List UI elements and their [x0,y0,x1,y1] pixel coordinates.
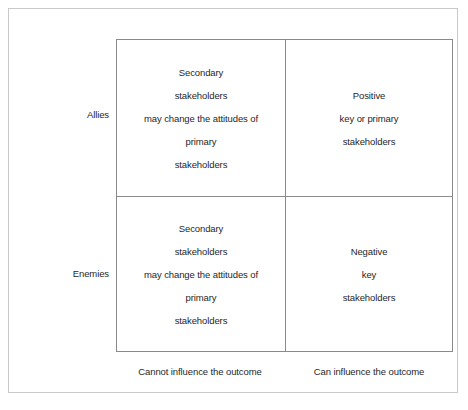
quadrant-text-line: stakeholders [343,130,396,153]
quadrant-text-line: Positive [353,84,385,107]
quadrant-text-line: primary [186,286,217,309]
quadrant-allies-cannot-influence: Secondary stakeholders may change the at… [117,40,285,196]
quadrant-text-line: stakeholders [343,286,396,309]
quadrant-text-line: primary [186,130,217,153]
quadrant-text-line: key or primary [340,107,399,130]
quadrant-allies-can-influence: Positive key or primary stakeholders [286,40,452,196]
diagram-outer-frame: Secondary stakeholders may change the at… [8,8,458,393]
quadrant-text-line: may change the attitudes of [144,107,258,130]
quadrant-text-line: Secondary [179,61,224,84]
quadrant-text-line: key [362,263,376,286]
quadrant-enemies-can-influence: Negative key stakeholders [286,197,452,351]
column-label-can-influence: Can influence the outcome [285,366,453,377]
quadrant-text-line: stakeholders [175,240,228,263]
row-label-allies: Allies [17,109,109,120]
quadrant-text-line: Negative [351,240,388,263]
quadrant-text-line: may change the attitudes of [144,263,258,286]
quadrant-text-line: stakeholders [175,153,228,176]
quadrant-enemies-cannot-influence: Secondary stakeholders may change the at… [117,197,285,351]
quadrant-text-line: stakeholders [175,84,228,107]
column-label-cannot-influence: Cannot influence the outcome [116,366,284,377]
row-label-enemies: Enemies [17,268,109,279]
quadrant-text-line: stakeholders [175,309,228,332]
quadrant-text-line: Secondary [179,217,224,240]
stakeholder-matrix: Secondary stakeholders may change the at… [116,39,453,352]
